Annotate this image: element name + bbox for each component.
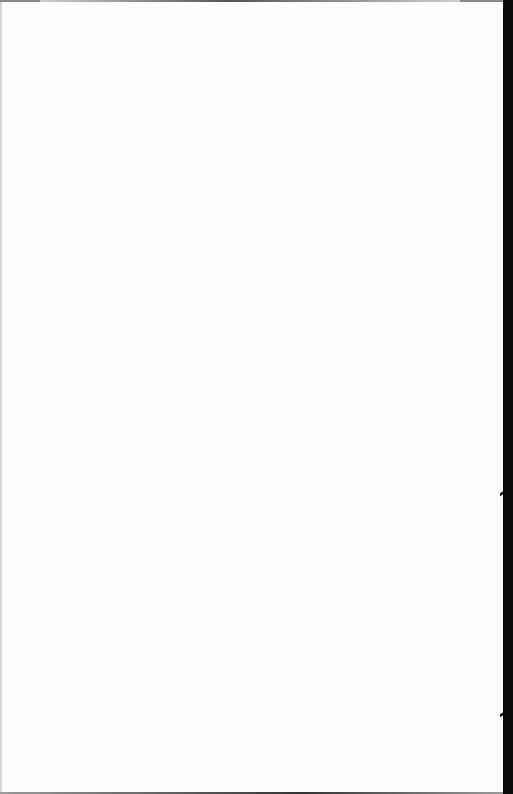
scanned-page-image [0,0,513,794]
page-top-edge [40,0,460,2]
scanner-dark-edge [503,0,513,794]
paper-page [0,0,503,794]
